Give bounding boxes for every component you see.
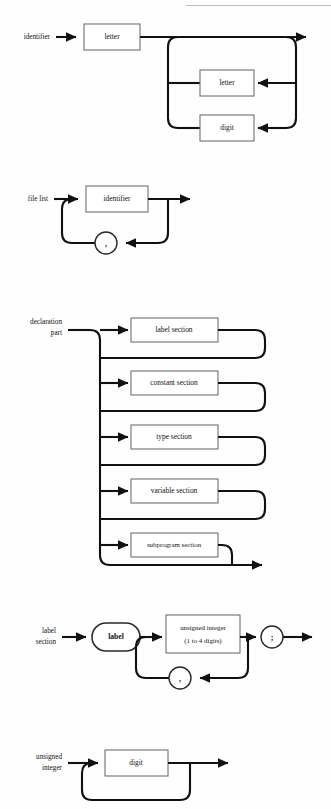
declaration-constant-section-box-label: constant section [150, 378, 198, 387]
declaration-branch-5-return [218, 545, 232, 565]
label-section-unsigned-integer-line2: (1 to 4 digits) [184, 637, 221, 645]
label-section-loop-left-rail [136, 637, 170, 678]
file-list-nonterminal-label: file list [28, 195, 48, 203]
diagram-identifier: identifier letter letter digit [24, 24, 306, 141]
declaration-part-label-line2: part [51, 329, 62, 337]
declaration-part-left-rail [90, 330, 110, 565]
declaration-part-label-line1: declaration [30, 318, 62, 326]
identifier-nonterminal-label: identifier [24, 33, 51, 41]
declaration-variable-section-box-label: variable section [151, 486, 198, 495]
identifier-letter-loop-corner [286, 73, 296, 83]
diagram-label-section: label section label unsigned integer (1 … [36, 615, 312, 689]
label-section-semicolon-label: ; [271, 633, 274, 642]
diagram-declaration-part: declaration part label section constant … [30, 318, 265, 565]
label-section-label-line1: label [42, 627, 56, 635]
label-section-unsigned-integer-box [166, 615, 240, 653]
unsigned-integer-label-line2: integer [42, 764, 63, 772]
diagram-file-list: file list identifier , [28, 186, 190, 254]
file-list-identifier-box-label: identifier [103, 194, 131, 203]
declaration-type-section-box-label: type section [156, 432, 192, 441]
identifier-letter-box-label: letter [104, 32, 120, 41]
unsigned-integer-label-line1: unsigned [36, 753, 62, 761]
label-keyword-terminal-label: label [108, 632, 124, 641]
identifier-letter-loop-box-label: letter [219, 78, 235, 87]
syntax-diagram-canvas: identifier letter letter digit [0, 0, 331, 809]
declaration-label-section-box-label: label section [155, 325, 192, 334]
declaration-subprogram-section-box-label: subprogram section [147, 541, 202, 548]
unsigned-integer-digit-box-label: digit [129, 758, 143, 767]
label-section-label-line2: section [36, 638, 57, 646]
file-list-comma-label: , [105, 239, 107, 248]
diagram-page: identifier letter letter digit [0, 0, 331, 809]
identifier-digit-loop-box-label: digit [220, 123, 234, 132]
diagram-unsigned-integer: unsigned integer digit [36, 750, 228, 800]
label-section-unsigned-integer-line1: unsigned integer [180, 624, 226, 631]
label-section-comma-label: , [179, 674, 181, 683]
